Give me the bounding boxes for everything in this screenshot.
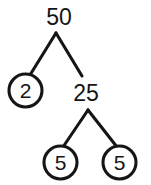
edge-root-to-right-child [56,33,82,76]
node-right-child[interactable]: 25 [73,80,99,106]
edge-right-child-to-leaf-right [88,110,117,147]
node-leaf-right-label: 5 [114,151,126,174]
tree-diagram: 50 2 25 5 5 [0,0,151,185]
node-root-label: 50 [46,4,72,30]
node-leaf-left[interactable]: 5 [44,146,77,179]
node-right-child-label: 25 [73,80,99,106]
node-left-child-label: 2 [20,79,32,102]
edge-root-to-left-child [30,33,56,75]
node-root[interactable]: 50 [46,4,72,30]
node-leaf-right[interactable]: 5 [103,146,136,179]
tree-diagram-canvas: 50 2 25 5 5 [0,0,151,185]
node-left-child[interactable]: 2 [9,74,42,107]
node-leaf-left-label: 5 [55,151,67,174]
edge-right-child-to-leaf-left [63,110,88,147]
